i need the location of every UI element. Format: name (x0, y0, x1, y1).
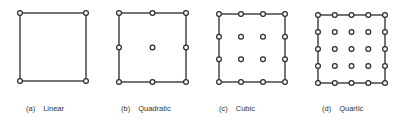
boundary-node (383, 47, 388, 52)
boundary-node (117, 45, 122, 50)
caption-name: Linear (43, 104, 64, 113)
caption-cubic: (c)Cubic (219, 104, 255, 113)
boundary-node (316, 64, 321, 69)
boundary-node (217, 57, 222, 62)
boundary-node (184, 11, 189, 16)
boundary-node (239, 12, 244, 17)
interior-node (349, 30, 354, 35)
boundary-node (366, 13, 371, 18)
boundary-node (349, 13, 354, 18)
boundary-node (18, 79, 23, 84)
boundary-node (18, 11, 23, 16)
element-boundary (219, 14, 285, 82)
boundary-node (117, 80, 122, 85)
boundary-node (283, 57, 288, 62)
interior-node (349, 47, 354, 52)
interior-node (261, 57, 266, 62)
boundary-node (261, 80, 266, 85)
interior-node (239, 57, 244, 62)
boundary-node (316, 30, 321, 35)
boundary-node (332, 81, 337, 86)
interior-node (366, 30, 371, 35)
element-boundary (20, 13, 86, 81)
caption-quartic: (d)Quartic (322, 104, 363, 113)
interior-node (150, 45, 155, 50)
boundary-node (383, 30, 388, 35)
interior-node (332, 47, 337, 52)
boundary-node (349, 81, 354, 86)
boundary-node (150, 11, 155, 16)
boundary-node (316, 47, 321, 52)
interior-node (332, 64, 337, 69)
caption-name: Quartic (339, 104, 363, 113)
boundary-node (383, 64, 388, 69)
boundary-node (316, 81, 321, 86)
caption-name: Cubic (236, 104, 255, 113)
caption-tag: (c) (219, 104, 228, 113)
interior-node (349, 64, 354, 69)
interior-node (332, 30, 337, 35)
boundary-node (332, 13, 337, 18)
interior-node (366, 47, 371, 52)
boundary-node (383, 13, 388, 18)
boundary-node (366, 81, 371, 86)
boundary-node (316, 13, 321, 18)
element-quartic (316, 13, 388, 86)
boundary-node (283, 12, 288, 17)
caption-tag: (d) (322, 104, 331, 113)
caption-quadratic: (b)Quadratic (121, 104, 171, 113)
boundary-node (84, 79, 89, 84)
element-linear (18, 11, 89, 84)
boundary-node (217, 34, 222, 39)
element-quadratic (117, 11, 189, 85)
caption-linear: (a)Linear (26, 104, 64, 113)
interior-node (366, 64, 371, 69)
boundary-node (283, 80, 288, 85)
boundary-node (217, 80, 222, 85)
boundary-node (184, 45, 189, 50)
caption-name: Quadratic (138, 104, 171, 113)
boundary-node (239, 80, 244, 85)
element-cubic (217, 12, 288, 85)
boundary-node (84, 11, 89, 16)
boundary-node (217, 12, 222, 17)
boundary-node (383, 81, 388, 86)
boundary-node (150, 80, 155, 85)
boundary-node (117, 11, 122, 16)
caption-tag: (b) (121, 104, 130, 113)
interior-node (239, 34, 244, 39)
boundary-node (184, 80, 189, 85)
interior-node (261, 34, 266, 39)
boundary-node (283, 34, 288, 39)
caption-tag: (a) (26, 104, 35, 113)
boundary-node (261, 12, 266, 17)
